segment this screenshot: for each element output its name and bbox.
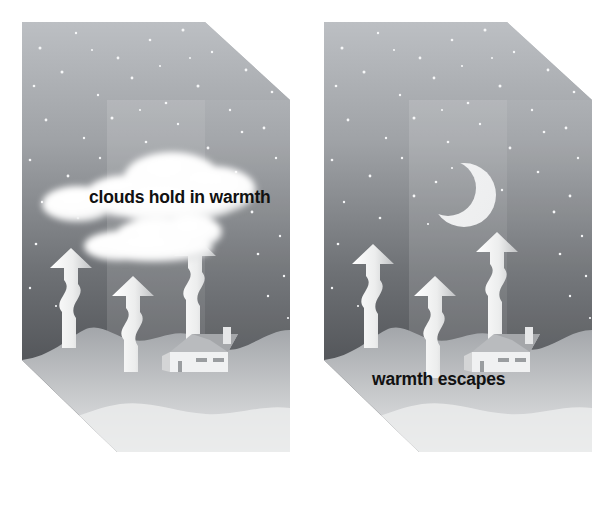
house-chimney: [223, 327, 231, 344]
caption-clouds-hold-in-warmth: clouds hold in warmth: [89, 187, 271, 207]
house-window: [498, 358, 509, 362]
panel-cloudy-night: clouds hold in warmth: [0, 0, 302, 529]
house-chimney: [525, 327, 533, 344]
house-door: [178, 361, 182, 372]
house-window: [196, 358, 207, 362]
caption-warmth-escapes: warmth escapes: [371, 369, 506, 389]
figure-root: clouds hold in warmth: [0, 0, 604, 529]
house-window: [515, 358, 526, 362]
house-window: [213, 358, 224, 362]
panel-clear-night: warmth escapes: [302, 0, 604, 529]
